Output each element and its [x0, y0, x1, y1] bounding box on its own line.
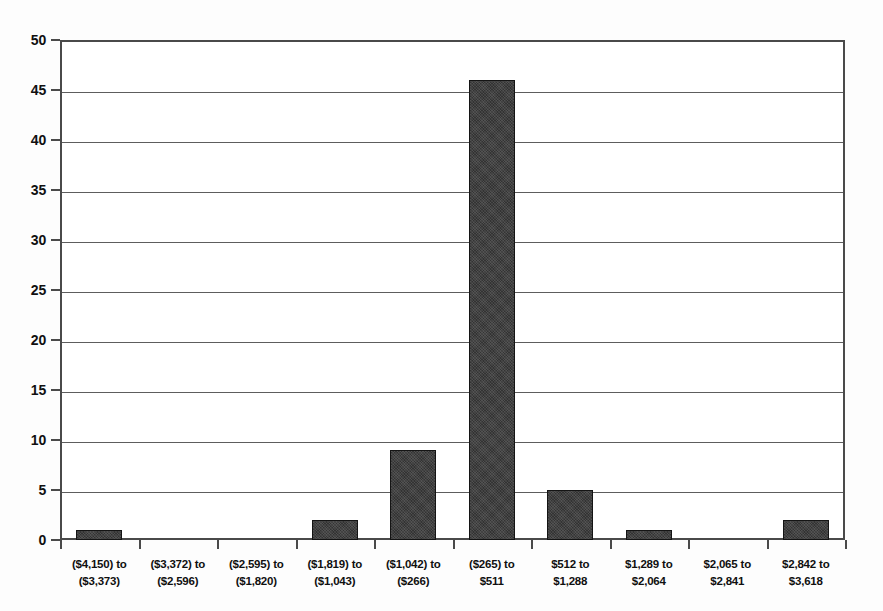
x-axis-label-line1: ($3,372) to	[139, 556, 218, 573]
x-axis-tick-mark	[139, 540, 141, 549]
x-axis-label-line2: $3,618	[767, 573, 846, 590]
x-axis-tick-mark	[453, 540, 455, 549]
y-axis-tick-mark	[51, 239, 60, 241]
bar[interactable]	[547, 490, 593, 540]
bar[interactable]	[783, 520, 829, 540]
x-axis-tick-mark	[531, 540, 533, 549]
x-axis-category-label: ($4,150) to($3,373)	[60, 556, 139, 590]
x-axis-category-label: ($2,595) to($1,820)	[217, 556, 296, 590]
x-axis-label-line2: $511	[453, 573, 532, 590]
x-axis-label-line2: ($266)	[374, 573, 453, 590]
y-axis-tick-mark	[51, 539, 60, 541]
x-axis-label-line2: $1,288	[531, 573, 610, 590]
x-axis-category-label: ($265) to$511	[453, 556, 532, 590]
y-axis-tick-label: 20	[31, 332, 46, 348]
x-axis-category-label: $512 to$1,288	[531, 556, 610, 590]
y-axis-tick-mark	[51, 39, 60, 41]
y-axis-tick-label: 30	[31, 232, 46, 248]
x-axis-label-line2: $2,064	[610, 573, 689, 590]
x-axis-tick-mark	[688, 540, 690, 549]
x-axis-category-label: $1,289 to$2,064	[610, 556, 689, 590]
histogram-chart: 05101520253035404550 ($4,150) to($3,373)…	[0, 0, 883, 611]
y-axis-tick-mark	[51, 289, 60, 291]
x-axis-tick-mark	[374, 540, 376, 549]
x-axis-label-line1: ($4,150) to	[60, 556, 139, 573]
x-axis-category-label: ($1,819) to($1,043)	[296, 556, 375, 590]
bar[interactable]	[312, 520, 358, 540]
y-axis-tick-label: 35	[31, 182, 46, 198]
x-axis-label-line1: $2,065 to	[688, 556, 767, 573]
y-axis-tick-mark	[51, 189, 60, 191]
x-axis-label-line2: ($1,820)	[217, 573, 296, 590]
y-axis: 05101520253035404550	[0, 0, 60, 611]
x-axis-category-label: $2,065 to$2,841	[688, 556, 767, 590]
x-axis-category-label: ($3,372) to($2,596)	[139, 556, 218, 590]
y-axis-tick-mark	[51, 489, 60, 491]
bar-slot	[453, 40, 532, 540]
y-axis-tick-label: 15	[31, 382, 46, 398]
bar-slot	[139, 40, 218, 540]
bar[interactable]	[626, 530, 672, 540]
y-axis-tick-label: 45	[31, 82, 46, 98]
x-axis-tick-mark	[845, 540, 847, 549]
bar-slot	[296, 40, 375, 540]
y-axis-tick-label: 10	[31, 432, 46, 448]
y-axis-tick-label: 25	[31, 282, 46, 298]
x-axis-tick-mark	[767, 540, 769, 549]
bar-slot	[610, 40, 689, 540]
bar-slot	[531, 40, 610, 540]
bar[interactable]	[76, 530, 122, 540]
y-axis-tick-label: 5	[38, 482, 46, 498]
y-axis-tick-label: 0	[38, 532, 46, 548]
x-axis-label-line1: $512 to	[531, 556, 610, 573]
x-axis-ticks	[60, 540, 845, 550]
y-axis-tick-label: 40	[31, 132, 46, 148]
y-axis-tick-label: 50	[31, 32, 46, 48]
bar-slot	[688, 40, 767, 540]
y-axis-tick-mark	[51, 139, 60, 141]
x-axis-tick-mark	[60, 540, 62, 549]
bar-slot	[217, 40, 296, 540]
y-axis-tick-mark	[51, 89, 60, 91]
x-axis-label-line2: ($2,596)	[139, 573, 218, 590]
bars-group	[60, 40, 845, 540]
x-axis-label-line1: ($265) to	[453, 556, 532, 573]
x-axis-category-label: ($1,042) to($266)	[374, 556, 453, 590]
bar-slot	[60, 40, 139, 540]
y-axis-tick-mark	[51, 439, 60, 441]
y-axis-tick-mark	[51, 389, 60, 391]
x-axis-label-line1: ($1,042) to	[374, 556, 453, 573]
bar-slot	[767, 40, 846, 540]
x-axis-label-line1: $2,842 to	[767, 556, 846, 573]
x-axis-label-line2: $2,841	[688, 573, 767, 590]
x-axis-tick-mark	[610, 540, 612, 549]
x-axis-tick-mark	[217, 540, 219, 549]
y-axis-tick-mark	[51, 339, 60, 341]
x-axis-label-line1: ($1,819) to	[296, 556, 375, 573]
bar[interactable]	[390, 450, 436, 540]
x-axis-label-line1: $1,289 to	[610, 556, 689, 573]
x-axis-label-line1: ($2,595) to	[217, 556, 296, 573]
x-axis-label-line2: ($1,043)	[296, 573, 375, 590]
bar-slot	[374, 40, 453, 540]
x-axis-labels: ($4,150) to($3,373)($3,372) to($2,596)($…	[60, 556, 845, 606]
bar[interactable]	[469, 80, 515, 540]
x-axis-label-line2: ($3,373)	[60, 573, 139, 590]
x-axis-tick-mark	[296, 540, 298, 549]
x-axis-category-label: $2,842 to$3,618	[767, 556, 846, 590]
